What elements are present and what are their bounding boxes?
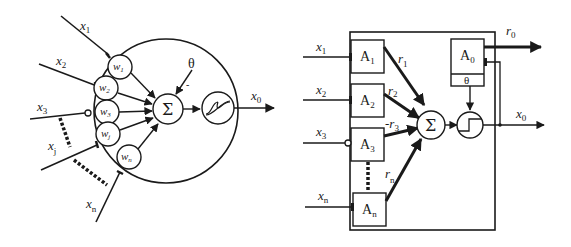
label-xn: xn	[317, 188, 329, 205]
label-x0: x0	[250, 88, 262, 105]
threshold-arrow	[176, 70, 192, 94]
label-theta: θ	[464, 74, 469, 86]
sum-symbol: Σ	[425, 116, 436, 135]
right-block-diagram	[303, 32, 544, 230]
sum-symbol: Σ	[162, 100, 173, 119]
feedback-line	[486, 62, 500, 125]
inhibitory-synapse-x3	[85, 110, 91, 116]
threshold-sign: -	[186, 79, 189, 90]
label-xn: xn	[85, 196, 97, 214]
label-x2: x2	[315, 82, 326, 99]
label-r3: -r3	[385, 116, 399, 133]
label-r1: r1	[398, 51, 408, 69]
label-x0: x0	[515, 106, 527, 123]
step-activation	[457, 112, 483, 138]
signal-rn	[386, 139, 421, 201]
label-x1: x1	[79, 18, 90, 35]
label-x1: x1	[315, 39, 326, 56]
left-neuron-diagram	[30, 16, 274, 222]
label-r2: r2	[388, 83, 398, 99]
ellipsis-dots	[74, 160, 107, 185]
label-x3: x3	[315, 124, 327, 141]
label-x2: x2	[55, 53, 66, 70]
ellipsis-dots	[60, 118, 70, 147]
inhibitory-synapse-x3	[345, 140, 351, 146]
threshold-label: θ	[188, 56, 195, 71]
label-r0: r0	[506, 23, 516, 40]
label-rn: rn	[385, 166, 395, 185]
label-x3: x3	[36, 99, 48, 116]
input-line-x2	[39, 64, 97, 86]
label-xj: xj	[47, 138, 56, 156]
